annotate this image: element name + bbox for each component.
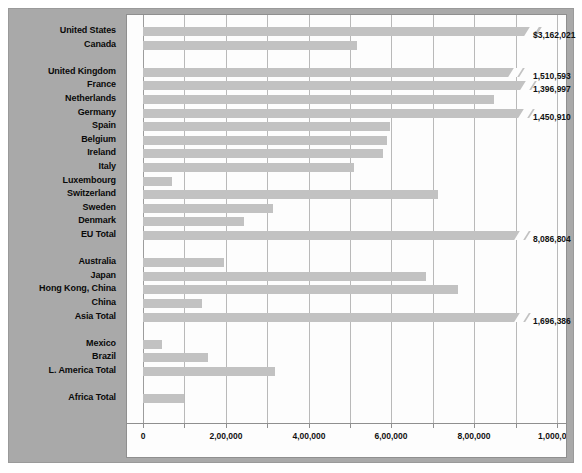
- bar-canada: [143, 41, 357, 50]
- category-label-germany: Germany: [9, 108, 116, 117]
- category-label-netherlands: Netherlands: [9, 94, 116, 103]
- x-tick-300000: [267, 423, 268, 428]
- x-tick-200000: [226, 423, 227, 428]
- bar-ireland: [143, 149, 383, 158]
- bar-mexico: [143, 340, 162, 349]
- bar-japan: [143, 272, 426, 281]
- category-label-denmark: Denmark: [9, 216, 116, 225]
- category-label-asia-total: Asia Total: [9, 312, 116, 321]
- x-tick-label-400000: 4,00,000: [292, 431, 325, 441]
- category-label-italy: Italy: [9, 162, 116, 171]
- x-tick-0: [143, 423, 144, 428]
- value-label-united-states: $3,162,021: [533, 31, 576, 40]
- value-label-france: 1,396,997: [533, 85, 571, 94]
- value-label-united-kingdom: 1,510,593: [533, 72, 571, 81]
- x-tick-100000: [184, 423, 185, 428]
- bar-france: [143, 81, 540, 90]
- bar-belgium: [143, 136, 387, 145]
- bar-asia-total: [143, 313, 534, 322]
- bar-spain: [143, 122, 390, 131]
- bar-netherlands: [143, 95, 494, 104]
- value-label-germany: 1,450,910: [533, 113, 571, 122]
- plot-area: 02,00,0004,00,0006,00,0008,00,0001,000,0…: [126, 14, 567, 458]
- category-label-australia: Australia: [9, 257, 116, 266]
- category-label-ireland: Ireland: [9, 148, 116, 157]
- bar-l-america-total: [143, 367, 275, 376]
- bar-luxembourg: [143, 177, 172, 186]
- category-label-l-america-total: L. America Total: [9, 366, 116, 375]
- x-axis-line: [127, 423, 566, 424]
- category-label-spain: Spain: [9, 121, 116, 130]
- x-tick-600000: [391, 423, 392, 428]
- category-label-france: France: [9, 80, 116, 89]
- category-label-china: China: [9, 298, 116, 307]
- x-tick-label-600000: 6,00,000: [374, 431, 407, 441]
- x-tick-800000: [474, 423, 475, 428]
- category-label-united-states: United States: [9, 26, 116, 35]
- x-tick-700000: [433, 423, 434, 428]
- bar-brazil: [143, 353, 208, 362]
- bar-australia: [143, 258, 224, 267]
- bar-hong-kong-china: [143, 285, 458, 294]
- x-tick-900000: [516, 423, 517, 428]
- bar-series: [127, 15, 566, 423]
- category-label-africa-total: Africa Total: [9, 393, 116, 402]
- category-label-eu-total: EU Total: [9, 230, 116, 239]
- value-annotation-column: $3,162,0211,510,5931,396,9971,450,9108,0…: [533, 14, 582, 458]
- category-label-switzerland: Switzerland: [9, 189, 116, 198]
- category-label-hong-kong-china: Hong Kong, China: [9, 284, 116, 293]
- value-label-eu-total: 8,086,804: [533, 235, 571, 244]
- bar-germany: [143, 109, 538, 118]
- value-label-asia-total: 1,696,386: [533, 317, 571, 326]
- category-label-belgium: Belgium: [9, 135, 116, 144]
- bar-united-kingdom: [143, 68, 528, 77]
- category-label-united-kingdom: United Kingdom: [9, 67, 116, 76]
- bar-italy: [143, 163, 354, 172]
- category-label-brazil: Brazil: [9, 352, 116, 361]
- x-tick-label-0: 0: [141, 431, 146, 441]
- bar-switzerland: [143, 190, 438, 199]
- category-label-canada: Canada: [9, 40, 116, 49]
- bar-denmark: [143, 217, 244, 226]
- category-label-luxembourg: Luxembourg: [9, 176, 116, 185]
- bar-sweden: [143, 204, 273, 213]
- x-tick-500000: [350, 423, 351, 428]
- chart-screenshot: United StatesCanadaUnited KingdomFranceN…: [0, 0, 582, 473]
- category-label-mexico: Mexico: [9, 339, 116, 348]
- bar-united-states: [143, 27, 545, 36]
- category-label-japan: Japan: [9, 271, 116, 280]
- bar-africa-total: [143, 394, 184, 403]
- bar-eu-total: [143, 231, 534, 240]
- x-tick-label-800000: 8,00,000: [457, 431, 490, 441]
- x-tick-label-200000: 2,00,000: [209, 431, 242, 441]
- category-label-sweden: Sweden: [9, 203, 116, 212]
- chart-panel: United StatesCanadaUnited KingdomFranceN…: [8, 8, 574, 463]
- category-label-column: United StatesCanadaUnited KingdomFranceN…: [9, 9, 122, 464]
- x-tick-400000: [309, 423, 310, 428]
- bar-china: [143, 299, 202, 308]
